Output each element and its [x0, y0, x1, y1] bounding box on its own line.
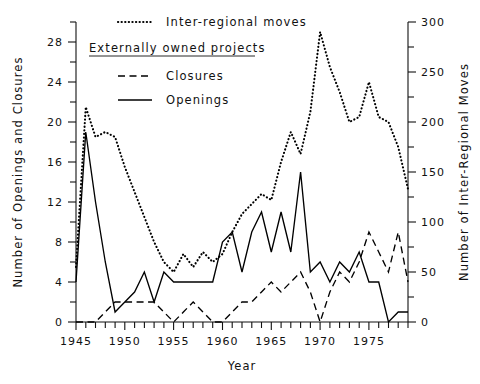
x-tick-1960: 1960: [207, 335, 239, 348]
series-inter-regional-moves: [76, 32, 408, 272]
legend-label-moves: Inter-regional moves: [166, 15, 307, 29]
x-tick-1945: 1945: [60, 335, 92, 348]
y-left-tick-8: 8: [55, 236, 63, 249]
chart-figure: 0 4 8 12 16 20 24 28 Number of Openings …: [0, 0, 480, 384]
legend-label-openings: Openings: [166, 93, 229, 107]
y-right-tick-250: 250: [421, 66, 445, 79]
y-left-tick-12: 12: [47, 196, 63, 209]
y-left-tick-4: 4: [55, 276, 63, 289]
x-tick-1970: 1970: [304, 335, 336, 348]
y-left-tick-20: 20: [47, 116, 63, 129]
plot-series-group: [76, 32, 408, 322]
y-right-tick-0: 0: [421, 316, 429, 329]
x-tick-1965: 1965: [255, 335, 287, 348]
x-tick-1950: 1950: [109, 335, 141, 348]
y-axis-left: 0 4 8 12 16 20 24 28 Number of Openings …: [11, 22, 76, 329]
legend-label-closures: Closures: [166, 69, 224, 83]
chart-legend: Inter-regional moves Externally owned pr…: [89, 15, 307, 107]
y-left-tick-16: 16: [47, 156, 63, 169]
y-right-tick-300: 300: [421, 16, 445, 29]
y-left-tick-0: 0: [55, 316, 63, 329]
x-tick-1975: 1975: [353, 335, 385, 348]
series-openings: [76, 132, 408, 322]
y-axis-right-title: Number of Inter-Regional Moves: [457, 63, 471, 281]
y-axis-right-ticks: [408, 22, 416, 322]
x-axis-title: Year: [227, 359, 257, 373]
y-right-tick-200: 200: [421, 116, 445, 129]
y-right-tick-150: 150: [421, 166, 445, 179]
y-axis-right: 0 50 100 150 200 250 300 Number of Inter…: [408, 16, 471, 329]
x-axis: 1945 1950 1955 1960 1965 1970 1975 Year: [60, 322, 408, 373]
y-axis-left-title: Number of Openings and Closures: [11, 56, 25, 287]
y-axis-left-ticks: [68, 22, 76, 322]
x-axis-ticks: [76, 322, 408, 330]
chart-canvas: 0 4 8 12 16 20 24 28 Number of Openings …: [0, 0, 480, 384]
legend-label-group: Externally owned projects: [89, 41, 266, 55]
series-closures: [76, 232, 408, 322]
y-right-tick-50: 50: [421, 266, 437, 279]
y-right-tick-100: 100: [421, 216, 445, 229]
y-left-tick-28: 28: [47, 36, 63, 49]
y-left-tick-24: 24: [47, 76, 63, 89]
x-tick-1955: 1955: [158, 335, 190, 348]
